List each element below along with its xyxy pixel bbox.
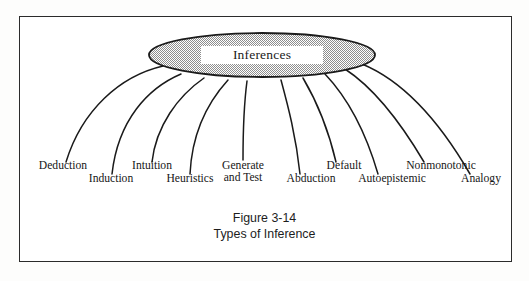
figure-caption-title: Types of Inference	[0, 227, 529, 243]
leaf-label-nonmonotonic-line1: Nonmonotonic	[406, 160, 476, 172]
leaf-label-deduction: Deduction	[39, 160, 87, 172]
leaf-label-induction: Induction	[89, 173, 133, 185]
leaf-label-generate-and-test: Generate and Test	[222, 160, 264, 185]
hub-label-text: Inferences	[233, 47, 291, 63]
leaf-label-generate-line2: and Test	[222, 172, 264, 184]
figure-root: Inferences Deduction Induction Intuition…	[0, 0, 529, 281]
leaf-label-autoepistemic-line1: Autoepistemic	[358, 173, 426, 185]
figure-caption: Figure 3-14 Types of Inference	[0, 211, 529, 242]
figure-caption-number: Figure 3-14	[0, 211, 529, 227]
leaf-label-autoepistemic: Autoepistemic	[358, 173, 426, 185]
leaf-label-induction-line1: Induction	[89, 173, 133, 185]
leaf-label-nonmonotonic: Nonmonotonic	[406, 160, 476, 172]
leaf-label-default: Default	[327, 160, 362, 172]
leaf-label-abduction: Abduction	[287, 173, 336, 185]
leaf-label-abduction-line1: Abduction	[287, 173, 336, 185]
leaf-label-heuristics: Heuristics	[166, 173, 213, 185]
leaf-label-default-line1: Default	[327, 160, 362, 172]
leaf-label-intuition: Intuition	[132, 160, 172, 172]
leaf-label-intuition-line1: Intuition	[132, 160, 172, 172]
leaf-label-analogy-line1: Analogy	[461, 173, 501, 185]
leaf-label-deduction-line1: Deduction	[39, 160, 87, 172]
leaf-label-analogy: Analogy	[461, 173, 501, 185]
leaf-label-heuristics-line1: Heuristics	[166, 173, 213, 185]
hub-label-plate: Inferences	[201, 46, 323, 64]
